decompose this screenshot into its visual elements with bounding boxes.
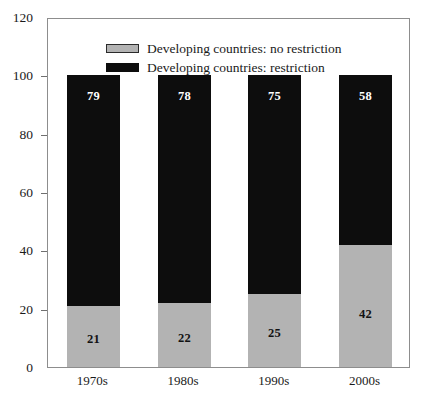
y-tick-label-100: 100 xyxy=(13,68,33,84)
y-tick-label-40: 40 xyxy=(20,243,34,259)
bar-segment-restriction-1990s[interactable]: 75 xyxy=(248,75,301,294)
clipped-caption-sliver xyxy=(0,0,421,7)
y-tick-label-80: 80 xyxy=(20,127,34,143)
x-tick-label-2000s: 2000s xyxy=(310,373,420,389)
bar-value-label-restriction-1970s: 79 xyxy=(67,89,120,104)
bar-value-label-no-restriction-1980s: 22 xyxy=(158,331,211,346)
bar-value-label-no-restriction-2000s: 42 xyxy=(339,307,392,322)
legend-item-restriction[interactable]: Developing countries: restriction xyxy=(106,60,342,75)
bar-segment-no-restriction-1980s[interactable]: 22 xyxy=(158,303,211,367)
bar-value-label-restriction-1980s: 78 xyxy=(158,89,211,104)
bar-group-2000s[interactable]: 5842 xyxy=(339,75,392,367)
bar-segment-no-restriction-1970s[interactable]: 21 xyxy=(67,306,120,367)
y-tick-label-0: 0 xyxy=(26,360,33,376)
black-swatch-icon xyxy=(106,63,139,72)
bar-value-label-restriction-2000s: 58 xyxy=(339,89,392,104)
legend-item-no-restriction[interactable]: Developing countries: no restriction xyxy=(106,41,342,56)
bar-value-label-no-restriction-1990s: 25 xyxy=(248,326,301,341)
y-axis: 020406080100120 xyxy=(0,0,47,400)
plot-area: Developing countries: no restriction Dev… xyxy=(47,18,410,368)
legend-label-restriction: Developing countries: restriction xyxy=(147,60,325,76)
bar-group-1990s[interactable]: 7525 xyxy=(248,75,301,367)
gray-swatch-icon xyxy=(106,44,139,53)
y-tick-label-20: 20 xyxy=(20,302,34,318)
bar-segment-restriction-1970s[interactable]: 79 xyxy=(67,75,120,305)
y-tick-label-120: 120 xyxy=(13,10,33,26)
chart-legend: Developing countries: no restriction Dev… xyxy=(106,41,342,79)
bar-group-1980s[interactable]: 7822 xyxy=(158,75,211,367)
bar-segment-no-restriction-1990s[interactable]: 25 xyxy=(248,294,301,367)
legend-label-no-restriction: Developing countries: no restriction xyxy=(147,41,342,57)
bar-segment-restriction-2000s[interactable]: 58 xyxy=(339,75,392,244)
bar-segment-no-restriction-2000s[interactable]: 42 xyxy=(339,245,392,368)
bar-group-1970s[interactable]: 7921 xyxy=(67,75,120,367)
bar-segment-restriction-1980s[interactable]: 78 xyxy=(158,75,211,303)
y-tick-label-60: 60 xyxy=(20,185,34,201)
bar-value-label-restriction-1990s: 75 xyxy=(248,89,301,104)
bar-value-label-no-restriction-1970s: 21 xyxy=(67,332,120,347)
